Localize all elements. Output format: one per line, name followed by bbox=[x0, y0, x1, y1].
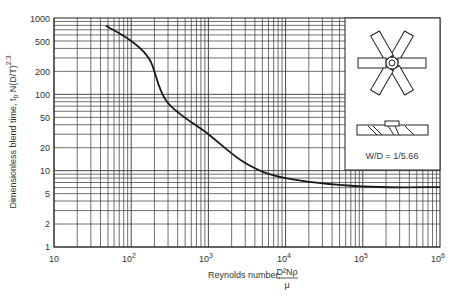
inset-box bbox=[345, 18, 440, 170]
y-tick: 200 bbox=[35, 67, 50, 77]
y-tick: 50 bbox=[40, 113, 50, 123]
x-tick: 103 bbox=[199, 252, 213, 264]
y-tick: 1 bbox=[45, 242, 50, 252]
y-tick: 1000 bbox=[30, 14, 50, 24]
y-tick: 20 bbox=[40, 143, 50, 153]
chart: 1 2 5 10 20 50 100 200 500 1000 10 102 1… bbox=[0, 0, 453, 297]
y-tick: 5 bbox=[45, 189, 50, 199]
x-axis-ticks: 10 102 103 104 105 106 bbox=[49, 252, 445, 264]
x-tick: 10 bbox=[49, 254, 59, 264]
x-tick: 104 bbox=[277, 252, 291, 264]
svg-text:μ: μ bbox=[284, 280, 289, 290]
x-tick: 102 bbox=[122, 252, 136, 264]
svg-text:Reynolds number,: Reynolds number, bbox=[208, 270, 281, 280]
inset-ratio-label: W/D = 1/5.66 bbox=[366, 151, 419, 161]
y-axis-ticks: 1 2 5 10 20 50 100 200 500 1000 bbox=[30, 14, 50, 252]
x-axis-title: Reynolds number, D²Nρ μ bbox=[208, 267, 298, 290]
y-tick: 100 bbox=[35, 90, 50, 100]
x-tick: 105 bbox=[354, 252, 368, 264]
y-axis-title: Dimensionless blend time, tb N(D/T)2.3 bbox=[5, 55, 19, 208]
y-tick: 2 bbox=[45, 219, 50, 229]
x-tick: 106 bbox=[431, 252, 445, 264]
y-tick: 500 bbox=[35, 37, 50, 47]
y-tick: 10 bbox=[40, 166, 50, 176]
svg-text:D²Nρ: D²Nρ bbox=[276, 267, 297, 277]
